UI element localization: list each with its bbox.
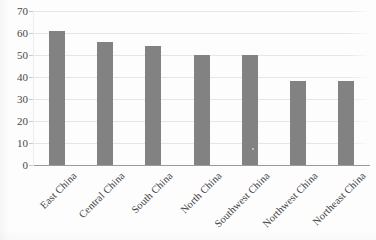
x-axis-ticks: East ChinaCentral ChinaSouth ChinaNorth …	[0, 0, 376, 240]
x-axis-tick-label: East China	[38, 170, 80, 212]
x-axis-tick-label: South China	[130, 170, 176, 216]
bar-chart: 010203040506070 East ChinaCentral ChinaS…	[0, 0, 376, 240]
scan-speck	[252, 148, 254, 150]
x-axis-tick-label: North China	[178, 170, 224, 216]
x-axis-tick-label: Central China	[77, 170, 128, 221]
